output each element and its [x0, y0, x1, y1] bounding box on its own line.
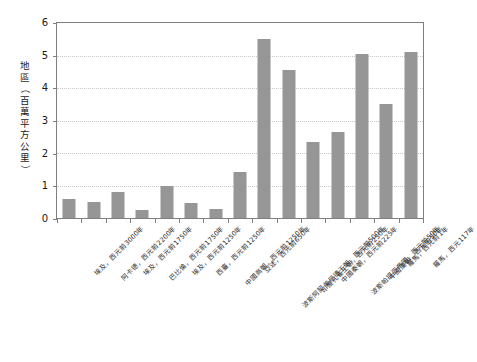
x-tick-mark [81, 219, 82, 223]
bar[interactable] [258, 39, 271, 218]
x-tick-label: 波斯帕提亞帝國，西元前50年 [370, 225, 442, 297]
y-tick-label: 1 [26, 181, 48, 191]
bar-slot [252, 23, 276, 218]
x-tick-mark [399, 219, 400, 223]
bar-slot [301, 23, 325, 218]
y-tick-label: 3 [26, 116, 48, 126]
bar[interactable] [209, 209, 222, 218]
x-tick-mark [423, 219, 424, 223]
x-tick-mark [301, 219, 302, 223]
bar[interactable] [233, 172, 246, 218]
bar[interactable] [111, 192, 124, 218]
bar[interactable] [136, 210, 149, 218]
x-tick-mark [179, 219, 180, 223]
bar[interactable] [380, 104, 393, 218]
x-tick-label: 中國商朝，西元前1250年 [244, 225, 307, 288]
bar[interactable] [331, 132, 344, 218]
x-tick-mark [57, 219, 58, 223]
y-tick-label: 6 [26, 18, 48, 28]
x-tick-label: 阿卡德，西元前2200年 [120, 225, 178, 283]
x-tick-mark [106, 219, 107, 223]
bar-slot [81, 23, 105, 218]
bar[interactable] [87, 202, 100, 218]
bar[interactable] [307, 142, 320, 218]
bars-layer [57, 23, 423, 218]
y-axis-title-char: 方 [14, 129, 36, 141]
y-tick-label: 2 [26, 149, 48, 159]
x-tick-mark [155, 219, 156, 223]
y-tick-label: 5 [26, 51, 48, 61]
x-tick-label: 巴比倫，西元前1750年 [169, 225, 227, 283]
bar-slot [228, 23, 252, 218]
x-tick-mark [350, 219, 351, 223]
x-tick-mark [203, 219, 204, 223]
x-tick-label: 波斯阿契美尼德王朝，西元前500年 [302, 225, 387, 310]
bar-slot [179, 23, 203, 218]
y-axis-title-char: ） [19, 158, 31, 180]
bar[interactable] [282, 70, 295, 218]
bar-slot [325, 23, 349, 218]
bar[interactable] [63, 199, 76, 219]
x-tick-label: 羅馬，西元前1年 [407, 225, 451, 269]
bar[interactable] [404, 52, 417, 218]
bar[interactable] [355, 54, 368, 218]
bar-slot [130, 23, 154, 218]
x-tick-mark [228, 219, 229, 223]
x-tick-label: 埃及，西元前1750年 [143, 225, 196, 278]
x-tick-mark [252, 219, 253, 223]
x-tick-mark [130, 219, 131, 223]
x-tick-label: 埃及，西元前3000年 [94, 225, 147, 278]
bar[interactable] [160, 186, 173, 219]
bar-slot [106, 23, 130, 218]
x-tick-label: 中國秦朝，西元前225年 [341, 225, 401, 285]
y-tick-label: 4 [26, 83, 48, 93]
x-tick-label: 印度孔雀王朝，西元前250年 [320, 225, 390, 295]
x-tick-label: 羅馬，西元117年 [432, 225, 477, 270]
x-tick-label: 亞述，西元前650年 [263, 225, 313, 275]
bar-slot [57, 23, 81, 218]
bar[interactable] [185, 203, 198, 218]
x-tick-mark [374, 219, 375, 223]
y-tick-label: 0 [26, 214, 48, 224]
bar-slot [203, 23, 227, 218]
bar-slot [155, 23, 179, 218]
x-tick-mark [325, 219, 326, 223]
bar-slot [374, 23, 398, 218]
bar-slot [350, 23, 374, 218]
y-axis-title-char: 地 [14, 60, 36, 72]
bar-slot [277, 23, 301, 218]
x-tick-label: 西臺，西元前1250年 [216, 225, 269, 278]
x-tick-label: 中國漢朝，西元前50年 [388, 225, 445, 282]
x-tick-mark [277, 219, 278, 223]
x-tick-label: 埃及，西元前1250年 [191, 225, 244, 278]
bar-slot [399, 23, 423, 218]
